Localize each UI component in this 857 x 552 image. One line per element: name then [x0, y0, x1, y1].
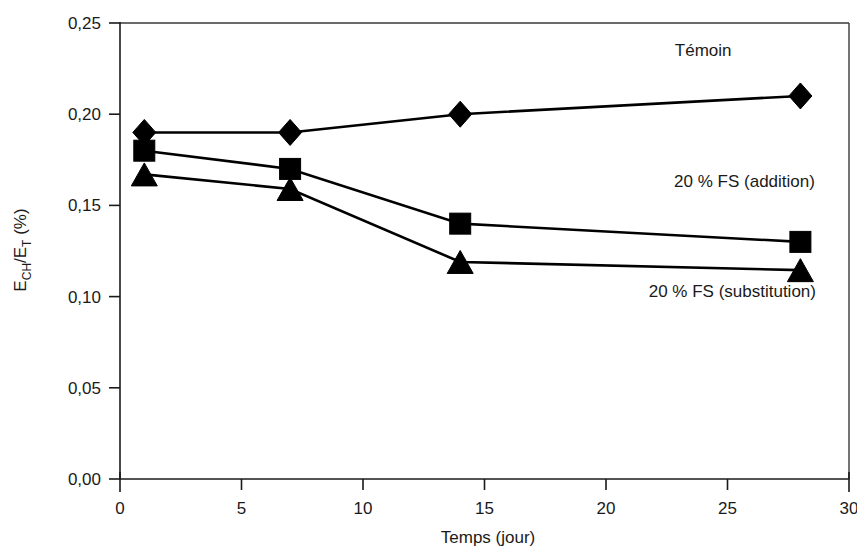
data-point-marker-square	[134, 140, 155, 161]
data-point-marker-square	[790, 231, 811, 252]
series-annotations: Témoin20 % FS (addition)20 % FS (substit…	[649, 41, 816, 301]
y-axis-tick-label: 0,15	[68, 196, 101, 215]
y-axis-title: ECH/ET (%)	[11, 208, 34, 291]
plot-frame	[120, 22, 849, 479]
line-chart: 0,000,050,100,150,200,25051015202530 Tém…	[0, 0, 857, 552]
data-point-marker-square	[280, 158, 301, 179]
x-axis-tick-label: 15	[475, 499, 494, 518]
y-axis-tick-label: 0,25	[68, 14, 101, 33]
chart-figure: 0,000,050,100,150,200,25051015202530 Tém…	[0, 0, 857, 552]
svg-text:ECH/ET (%): ECH/ET (%)	[11, 208, 34, 291]
y-axis-title-slash: /E	[11, 247, 30, 263]
data-point-marker-diamond	[789, 83, 812, 109]
data-point-marker-diamond	[279, 119, 302, 145]
y-axis-title-base: E	[11, 280, 30, 291]
x-axis-tick-label: 0	[115, 499, 124, 518]
series-label: 20 % FS (substitution)	[649, 282, 816, 301]
y-axis-tick-label: 0,05	[68, 379, 101, 398]
data-point-marker-square	[450, 213, 471, 234]
axis-ticks	[109, 23, 849, 492]
data-point-marker-diamond	[449, 101, 472, 127]
x-axis-tick-label: 30	[840, 499, 857, 518]
x-axis-tick-label: 5	[237, 499, 246, 518]
series-label: Témoin	[675, 41, 732, 60]
y-axis-tick-label: 0,20	[68, 105, 101, 124]
x-axis-tick-label: 20	[597, 499, 616, 518]
series-label: 20 % FS (addition)	[674, 172, 815, 191]
x-axis-tick-label: 25	[718, 499, 737, 518]
y-axis-title-sub-ch: CH	[20, 263, 34, 280]
series-line	[144, 151, 800, 242]
y-axis-tick-label: 0,00	[68, 470, 101, 489]
y-axis-tick-label: 0,10	[68, 288, 101, 307]
x-axis-tick-label: 10	[354, 499, 373, 518]
y-axis-title-unit: (%)	[11, 208, 30, 239]
x-axis-title: Temps (jour)	[441, 528, 535, 547]
